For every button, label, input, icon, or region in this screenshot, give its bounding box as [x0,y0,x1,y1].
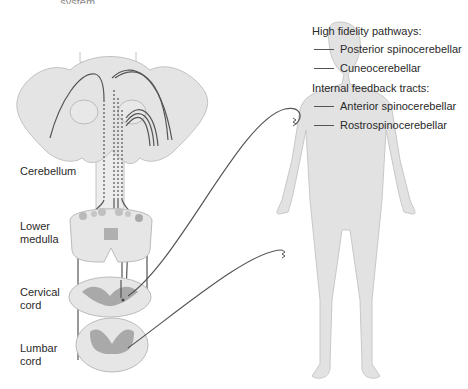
cerebellum-shape [17,57,208,164]
line-swatch-icon [314,125,334,126]
muscle-spindle-arm [293,118,296,126]
legend-item-label: Cuneocerebellar [340,62,421,74]
legend-item-label: Anterior spinocerebellar [340,100,456,112]
muscle-spindle-leg [282,250,285,258]
legend-group2-title: Internal feedback tracts: [312,81,462,100]
label-cervical-2: cord [20,299,41,312]
line-swatch-icon [314,68,334,69]
lumbar-cord-section [76,318,148,372]
label-lower-medulla-1: Lower [20,220,50,233]
legend: High fidelity pathways: Posterior spinoc… [312,24,462,138]
legend-item: Posterior spinocerebellar [312,43,462,62]
legend-group1-title: High fidelity pathways: [312,24,462,43]
lower-medulla-section [70,208,152,262]
line-swatch-icon [314,106,334,107]
label-lower-medulla-2: medulla [20,233,59,246]
legend-item: Cuneocerebellar [312,62,462,81]
label-lumbar-2: cord [20,355,41,368]
legend-item-label: Rostrospinocerebellar [340,119,447,131]
legend-item: Rostrospinocerebellar [312,119,462,138]
label-cerebellum: Cerebellum [20,165,76,178]
label-cervical-1: Cervical [20,286,60,299]
line-swatch-icon [314,49,334,50]
deep-nucleus-left [70,100,98,124]
label-lumbar-1: Lumbar [20,342,57,355]
legend-item: Anterior spinocerebellar [312,100,462,119]
cervical-cord-section [69,277,151,317]
legend-item-label: Posterior spinocerebellar [340,43,462,55]
